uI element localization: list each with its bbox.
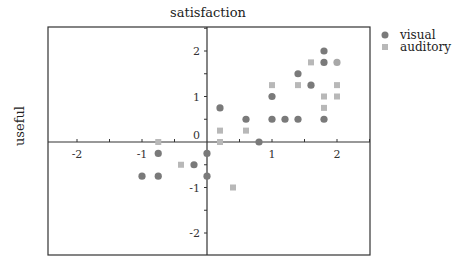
scatter-chart: satisfaction useful -2-112-2-1012 visual… [0,0,467,276]
y-tick-label: -2 [189,227,200,240]
legend-visual-marker [382,32,389,39]
data-points [138,47,340,190]
point-visual [203,150,210,157]
point-visual [155,173,162,180]
legend: visual auditory [382,28,452,54]
point-visual [320,47,327,54]
point-auditory [321,105,327,111]
y-axis-label: useful [12,106,27,146]
y-tick-label: 1 [193,91,200,104]
point-visual [320,116,327,123]
y-tick-label: 2 [193,45,200,58]
y-tick-label: 0 [193,129,200,142]
point-visual [255,138,262,145]
point-visual [190,161,197,168]
point-visual [307,82,314,89]
x-tick-label: 2 [334,148,341,161]
point-auditory [295,82,301,88]
point-auditory [308,59,314,65]
legend-auditory-label: auditory [400,40,451,54]
point-auditory [243,128,249,134]
point-visual [138,173,145,180]
point-auditory [321,94,327,100]
point-visual [294,116,301,123]
point-visual [216,104,223,111]
point-visual [155,150,162,157]
point-visual [294,70,301,77]
point-visual [333,59,340,66]
point-visual [242,116,249,123]
point-auditory [334,82,340,88]
point-auditory [334,94,340,100]
point-visual [268,93,275,100]
y-tick-label: -1 [189,182,200,195]
chart-title: satisfaction [170,5,247,20]
point-auditory [217,128,223,134]
point-visual [281,116,288,123]
point-auditory [178,162,184,168]
x-tick-label: 1 [269,148,276,161]
legend-auditory-marker [382,44,388,50]
point-visual [268,116,275,123]
point-auditory [217,139,223,145]
point-auditory [269,82,275,88]
x-tick-label: -2 [72,148,83,161]
point-visual [203,173,210,180]
point-auditory [230,185,236,191]
point-auditory [155,139,161,145]
point-visual [320,59,327,66]
x-tick-label: -1 [137,148,148,161]
